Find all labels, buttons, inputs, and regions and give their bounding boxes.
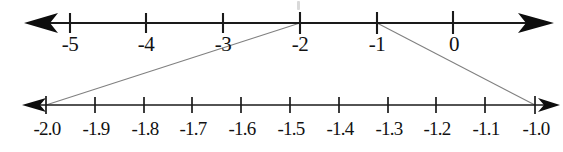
- top-tick-label--1: -1: [369, 34, 386, 55]
- top-tick-label-0: 0: [449, 34, 459, 55]
- top-tick-label--4: -4: [138, 34, 155, 55]
- magnifier-connectors: [46, 23, 535, 105]
- bottom-number-line: [22, 96, 560, 114]
- bottom-tick-label--1.7: -1.7: [180, 119, 207, 138]
- bottom-tick-label--1.5: -1.5: [278, 119, 305, 138]
- bottom-tick-label--1.0: -1.0: [523, 119, 550, 138]
- bottom-tick-label--2.0: -2.0: [34, 119, 61, 138]
- bottom-tick-label--1.1: -1.1: [473, 119, 500, 138]
- top-number-line: [24, 11, 554, 34]
- number-line-figure: -5 -4 -3 -2 -1 0 -2.0 -1.9 -1.8 -1.7 -1.…: [0, 0, 563, 152]
- bottom-tick-label--1.3: -1.3: [376, 119, 403, 138]
- bottom-tick-label--1.2: -1.2: [424, 119, 451, 138]
- top-tick-label--2: -2: [292, 34, 309, 55]
- bottom-tick-label--1.9: -1.9: [83, 119, 110, 138]
- scan-artifact-mark: [297, 1, 300, 10]
- left-magnifier-connector: [46, 23, 300, 105]
- top-tick-label--3: -3: [215, 34, 232, 55]
- bottom-tick-label--1.4: -1.4: [327, 119, 354, 138]
- top-tick-label--5: -5: [62, 34, 79, 55]
- bottom-tick-label--1.8: -1.8: [132, 119, 159, 138]
- bottom-tick-label--1.6: -1.6: [229, 119, 256, 138]
